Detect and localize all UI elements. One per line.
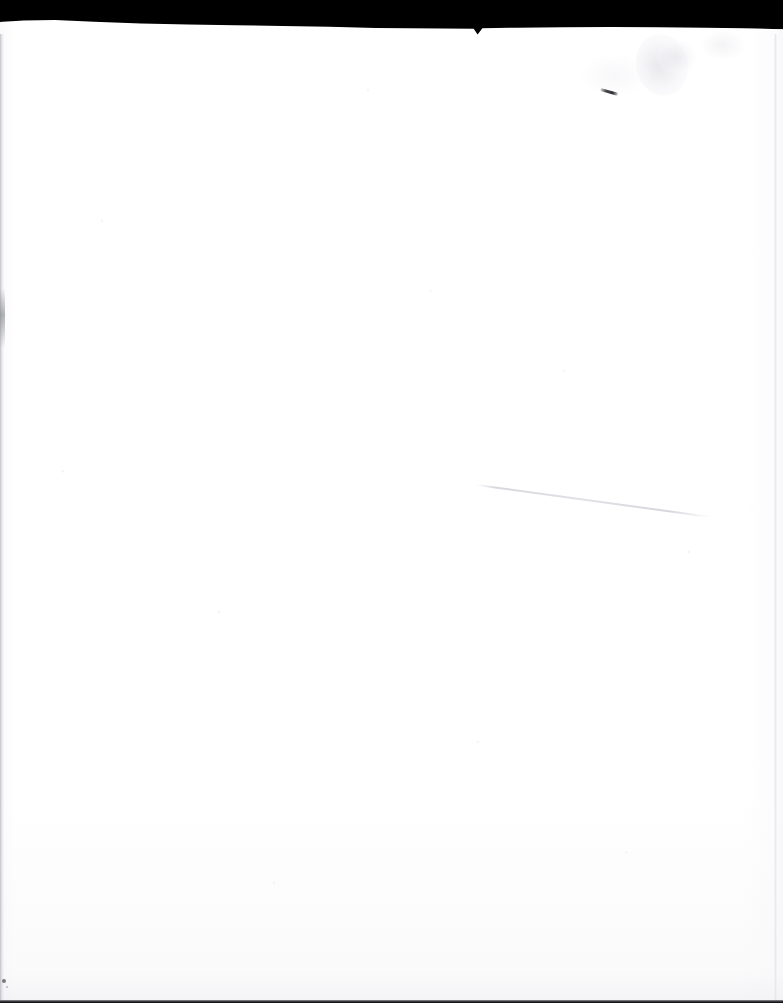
dust-speck-bottom-left-2 (6, 986, 8, 988)
crease-line (477, 484, 711, 518)
paper-left-edge-shadow (0, 288, 5, 348)
paper-sheet (0, 0, 783, 1003)
paper-illumination-horizontal (0, 0, 783, 1003)
smudge-upper-center (580, 55, 650, 95)
paper-illumination-vertical (0, 0, 783, 1003)
scan-grain-noise (0, 0, 783, 1003)
smudge-top-right (630, 29, 694, 100)
paper-right-edge (774, 34, 777, 1000)
scanned-page: Blank scanned page — no printed or handw… (0, 0, 783, 1003)
smudge-top-right-outer (700, 30, 746, 60)
pen-dash-mark (600, 88, 618, 96)
paper-left-edge (0, 34, 4, 1000)
smudge-top-right-inner (656, 40, 696, 74)
